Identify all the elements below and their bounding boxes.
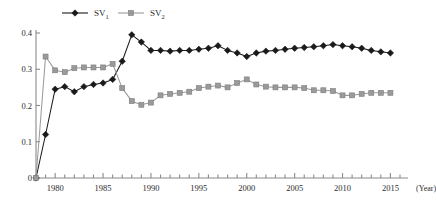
legend-item-SV1[interactable]: SV1	[62, 8, 109, 20]
x-axis-caption: (Year)	[416, 184, 436, 193]
x-tick-label: 2010	[334, 183, 351, 193]
data-point-SV1	[42, 131, 48, 137]
data-point-SV1	[176, 47, 182, 53]
data-point-SV1	[157, 47, 163, 53]
legend-label-SV1: SV1	[94, 8, 109, 20]
data-point-SV1	[387, 50, 393, 56]
data-point-SV2	[292, 85, 297, 90]
series-line-SV2	[36, 57, 390, 178]
data-point-SV2	[148, 100, 153, 105]
series-SV2	[34, 54, 393, 180]
data-point-SV2	[235, 81, 240, 86]
data-point-SV2	[388, 90, 393, 95]
data-point-SV2	[34, 176, 39, 181]
data-point-SV2	[187, 89, 192, 94]
data-point-SV1	[272, 47, 278, 53]
data-point-SV1	[100, 80, 106, 86]
y-tick-label: 0.4	[21, 28, 32, 38]
data-point-SV2	[225, 85, 230, 90]
legend-subscript-SV1: 1	[106, 13, 109, 20]
x-tick-label: 1985	[95, 183, 112, 193]
data-point-SV2	[340, 93, 345, 98]
y-tick-label: 0.3	[21, 64, 32, 74]
data-point-SV2	[158, 93, 163, 98]
x-tick-label: 2000	[238, 183, 255, 193]
data-point-SV2	[62, 70, 67, 75]
x-tick-label: 2005	[286, 183, 303, 193]
data-point-SV2	[321, 88, 326, 93]
data-point-SV1	[234, 50, 240, 56]
data-point-SV2	[216, 83, 221, 88]
data-point-SV2	[177, 90, 182, 95]
data-point-SV2	[330, 89, 335, 94]
data-point-SV2	[196, 86, 201, 91]
data-point-SV2	[101, 65, 106, 70]
data-point-SV1	[186, 47, 192, 53]
data-point-SV1	[167, 48, 173, 54]
data-point-SV1	[205, 45, 211, 51]
legend-marker-SV2	[129, 11, 134, 16]
data-point-SV1	[52, 86, 58, 92]
data-point-SV1	[282, 46, 288, 52]
data-point-SV2	[244, 77, 249, 82]
legend: SV1SV2	[62, 8, 165, 20]
x-tick-label: 1990	[142, 183, 159, 193]
legend-label-SV2: SV2	[150, 8, 165, 20]
data-point-SV1	[378, 49, 384, 55]
data-point-SV1	[119, 58, 125, 64]
data-point-SV1	[196, 46, 202, 52]
legend-marker-SV1	[72, 10, 78, 16]
x-tick-label: 1980	[47, 183, 64, 193]
series-line-SV1	[36, 35, 390, 178]
data-point-SV2	[263, 84, 268, 89]
line-chart: 00.10.20.30.4198019851990199520002005201…	[0, 0, 436, 204]
data-point-SV2	[110, 61, 115, 66]
data-point-SV2	[273, 85, 278, 90]
data-point-SV2	[139, 102, 144, 107]
data-point-SV1	[244, 53, 250, 59]
data-point-SV2	[302, 86, 307, 91]
legend-item-SV2[interactable]: SV2	[118, 8, 165, 20]
data-point-SV1	[358, 45, 364, 51]
data-point-SV2	[91, 65, 96, 70]
data-point-SV2	[350, 93, 355, 98]
data-point-SV2	[72, 66, 77, 71]
y-tick-label: 0	[28, 173, 32, 183]
data-point-SV2	[120, 86, 125, 91]
y-tick-label: 0.2	[21, 101, 32, 111]
data-point-SV1	[253, 50, 259, 56]
data-point-SV2	[359, 91, 364, 96]
data-point-SV2	[43, 54, 48, 59]
data-point-SV2	[168, 91, 173, 96]
data-point-SV2	[311, 88, 316, 93]
data-point-SV1	[90, 81, 96, 87]
data-point-SV2	[283, 85, 288, 90]
data-point-SV2	[53, 68, 58, 73]
data-point-SV1	[62, 83, 68, 89]
x-tick-label: 1995	[190, 183, 207, 193]
legend-subscript-SV2: 2	[162, 13, 165, 20]
x-axis-ticks: 19801985199019952000200520102015	[36, 173, 400, 193]
data-point-SV1	[215, 42, 221, 48]
data-point-SV1	[224, 47, 230, 53]
data-point-SV1	[330, 41, 336, 47]
x-tick-label: 2015	[382, 183, 399, 193]
data-point-SV1	[109, 76, 115, 82]
data-point-SV1	[368, 47, 374, 53]
data-point-SV2	[369, 90, 374, 95]
data-point-SV1	[349, 44, 355, 50]
data-point-SV1	[291, 45, 297, 51]
axes	[36, 30, 408, 178]
data-point-SV2	[254, 82, 259, 87]
data-point-SV2	[81, 65, 86, 70]
y-tick-label: 0.1	[21, 137, 32, 147]
series-SV1	[33, 32, 394, 182]
data-point-SV2	[129, 99, 134, 104]
chart-container: 00.10.20.30.4198019851990199520002005201…	[0, 0, 436, 204]
data-point-SV1	[81, 83, 87, 89]
data-point-SV2	[378, 90, 383, 95]
data-point-SV1	[263, 48, 269, 54]
data-point-SV1	[339, 42, 345, 48]
data-point-SV2	[206, 84, 211, 89]
data-point-SV1	[311, 44, 317, 50]
